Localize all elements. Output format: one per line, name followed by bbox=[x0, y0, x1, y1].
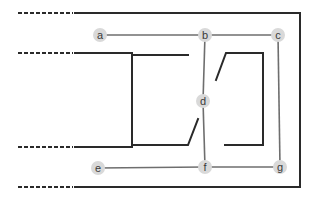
node-e-label: e bbox=[95, 162, 101, 174]
node-g: g bbox=[273, 160, 287, 174]
node-d: d bbox=[196, 94, 210, 108]
outer-walls bbox=[75, 13, 300, 187]
left-inner-walls bbox=[75, 53, 198, 147]
node-a: a bbox=[93, 28, 107, 42]
node-e: e bbox=[91, 161, 105, 175]
node-g-label: g bbox=[277, 161, 283, 173]
edge-c-g bbox=[278, 35, 280, 167]
node-b: b bbox=[198, 28, 212, 42]
edge-b-d bbox=[203, 35, 205, 101]
node-c-label: c bbox=[275, 29, 281, 41]
right-top-wall bbox=[216, 53, 263, 145]
node-f: f bbox=[198, 160, 212, 174]
node-b-label: b bbox=[202, 29, 208, 41]
node-c: c bbox=[271, 28, 285, 42]
left-bracket-wall bbox=[75, 53, 132, 147]
graph-nodes: a b c d e f g bbox=[91, 28, 287, 175]
right-inner-walls bbox=[216, 53, 263, 145]
dashed-openings bbox=[18, 13, 73, 187]
edge-e-f bbox=[98, 167, 205, 168]
outer-wall bbox=[75, 13, 300, 187]
node-d-label: d bbox=[200, 95, 206, 107]
left-bottom-wall bbox=[132, 119, 198, 145]
edge-d-f bbox=[203, 101, 205, 167]
maze-graph-diagram: a b c d e f g bbox=[0, 0, 315, 198]
diagram-svg: a b c d e f g bbox=[0, 0, 315, 198]
node-a-label: a bbox=[97, 29, 104, 41]
